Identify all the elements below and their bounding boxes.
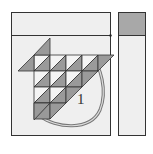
connector-dot bbox=[109, 34, 111, 36]
block-number-label: 1 bbox=[77, 91, 85, 107]
quilt-diagram: 1 bbox=[0, 0, 153, 154]
side-panel-header-shaded bbox=[119, 13, 146, 36]
